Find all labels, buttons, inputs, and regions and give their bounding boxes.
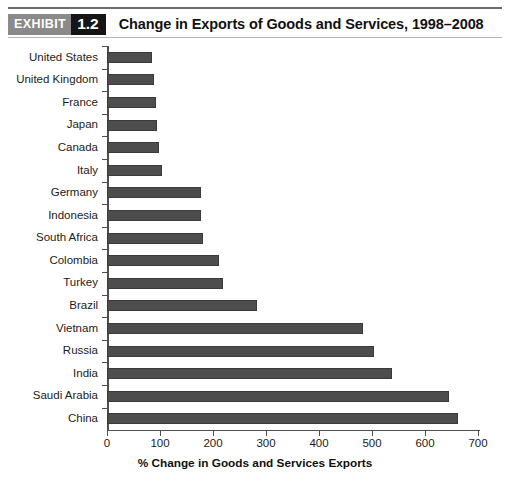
bar-row: Indonesia [107,204,478,227]
category-label: Brazil [6,300,107,312]
bar-row: France [107,91,478,114]
bar-row: India [107,362,478,385]
x-axis-tick [425,431,426,436]
bar-row: Canada [107,136,478,159]
x-axis-tick-label: 600 [415,438,434,450]
bar [107,142,159,153]
bar-row: China [107,408,478,431]
y-axis-tick [102,182,107,183]
category-label: Canada [6,142,107,154]
x-axis-tick [266,431,267,436]
bar-row: Russia [107,340,478,363]
category-label: Vietnam [6,323,107,335]
y-axis-tick [102,136,107,137]
bar [107,255,219,266]
category-label: Russia [6,345,107,357]
bar [107,165,162,176]
y-axis-tick [102,204,107,205]
y-axis-tick [102,295,107,296]
y-axis-tick [102,227,107,228]
bar [107,323,363,334]
bar [107,210,201,221]
category-label: United Kingdom [6,74,107,86]
y-axis-tick [102,408,107,409]
x-axis-tick [160,431,161,436]
x-axis-tick [372,431,373,436]
category-label: India [6,368,107,380]
category-label: Turkey [6,277,107,289]
x-axis-tick-label: 200 [203,438,222,450]
bars-container: United StatesUnited KingdomFranceJapanCa… [107,46,478,430]
exhibit-badge: EXHIBIT 1.2 [8,14,106,35]
y-axis-tick [102,114,107,115]
bar-row: Brazil [107,295,478,318]
y-axis-tick [102,340,107,341]
bar-row: South Africa [107,227,478,250]
category-label: Indonesia [6,210,107,222]
bar-row: Saudi Arabia [107,385,478,408]
x-axis-tick-label: 500 [362,438,381,450]
x-axis-tick [107,431,108,436]
bar-row: Colombia [107,249,478,272]
bar [107,278,223,289]
x-axis-tick [213,431,214,436]
bar [107,300,257,311]
bar [107,120,157,131]
bar [107,413,458,424]
y-axis-tick [102,46,107,47]
x-axis-tick-label: 300 [256,438,275,450]
category-label: Saudi Arabia [6,390,107,402]
exhibit-header: EXHIBIT 1.2 Change in Exports of Goods a… [8,13,502,35]
category-label: Japan [6,119,107,131]
x-axis-tick-label: 0 [104,438,110,450]
category-label: Germany [6,187,107,199]
y-axis-tick [102,69,107,70]
bar [107,52,152,63]
exhibit-figure: EXHIBIT 1.2 Change in Exports of Goods a… [0,0,510,483]
header-bottom-rule [8,37,502,38]
bar [107,97,156,108]
y-axis-tick [102,272,107,273]
bar-row: United Kingdom [107,69,478,92]
bar [107,187,201,198]
category-label: Italy [6,165,107,177]
y-axis-tick [102,159,107,160]
y-axis-tick [102,317,107,318]
category-label: United States [6,52,107,64]
category-label: South Africa [6,232,107,244]
exhibit-word-label: EXHIBIT [8,14,71,35]
bar-row: United States [107,46,478,69]
bar-row: Vietnam [107,317,478,340]
x-axis-tick [478,431,479,436]
x-axis-tick [319,431,320,436]
bar-row: Japan [107,114,478,137]
x-axis-tick-label: 100 [150,438,169,450]
bar [107,391,449,402]
y-axis-tick [102,91,107,92]
y-axis-tick [102,362,107,363]
y-axis-tick [102,385,107,386]
chart-plot-area: United StatesUnited KingdomFranceJapanCa… [0,44,510,444]
bar [107,74,154,85]
bar [107,368,392,379]
y-axis-tick [102,249,107,250]
x-axis-tick-label: 700 [468,438,487,450]
category-label: Colombia [6,255,107,267]
page-title: Change in Exports of Goods and Services,… [119,16,484,32]
category-label: France [6,97,107,109]
bar-row: Turkey [107,272,478,295]
header-top-rule [8,7,502,9]
x-axis-tick-label: 400 [309,438,328,450]
bar-row: Germany [107,182,478,205]
bar [107,346,374,357]
exhibit-number-label: 1.2 [71,14,106,35]
bar [107,233,203,244]
x-axis-title: % Change in Goods and Services Exports [0,456,510,470]
bar-row: Italy [107,159,478,182]
category-label: China [6,413,107,425]
